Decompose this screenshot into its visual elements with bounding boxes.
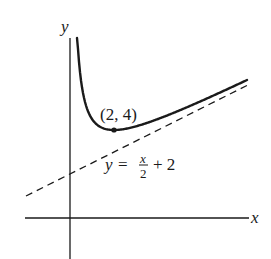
asymptote-label-numerator: x: [139, 151, 146, 166]
asymptote-label-rhs: + 2: [153, 155, 175, 174]
asymptote-label-equals: =: [118, 155, 128, 174]
x-axis-label: x: [250, 208, 259, 227]
asymptote-line: [26, 86, 247, 197]
asymptote-label-lhs-y: y: [103, 155, 113, 174]
asymptote-label: y = x 2 + 2: [103, 151, 175, 181]
graph-canvas: y x (2, 4) y = x 2 + 2: [0, 0, 271, 259]
minimum-point: [111, 127, 116, 132]
y-axis-label: y: [59, 17, 69, 36]
asymptote-label-denominator: 2: [140, 166, 147, 181]
point-label: (2, 4): [100, 105, 137, 124]
